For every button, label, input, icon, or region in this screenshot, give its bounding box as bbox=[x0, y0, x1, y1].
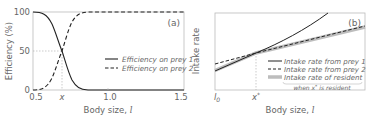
ytick-50: 50 bbox=[19, 46, 30, 56]
xtick-1.5: 1.5 bbox=[174, 92, 188, 102]
panel-a-frame bbox=[33, 12, 184, 90]
legend-prey-1: Efficiency on prey 1 bbox=[122, 55, 193, 64]
panel-b: l0 x* Intake rate Body size, l (b) Intak… bbox=[191, 13, 366, 115]
curve-prey-2 bbox=[33, 12, 184, 90]
panel-a: 100 50 0 0.5 x 1.0 1.5 Efficiency (%) Bo… bbox=[4, 7, 194, 115]
legend-b-note: when x* is resident bbox=[293, 84, 351, 91]
xtick-xstar: x* bbox=[251, 91, 260, 102]
xtick-0.5: 0.5 bbox=[29, 92, 43, 102]
ytick-100: 100 bbox=[14, 7, 30, 17]
legend-b-prey-2: Intake rate from prey 2 bbox=[284, 66, 366, 74]
panel-b-legend: Intake rate from prey 1 Intake rate from… bbox=[268, 58, 366, 91]
xtick-l0: l0 bbox=[214, 92, 220, 103]
curve-prey-1 bbox=[33, 12, 184, 90]
xtick-1.0: 1.0 bbox=[103, 92, 117, 102]
x-axis-label: Body size, l bbox=[84, 105, 133, 115]
x-axis-label-b: Body size, l bbox=[266, 105, 315, 115]
panel-a-legend: Efficiency on prey 1 Efficiency on prey … bbox=[105, 55, 194, 73]
panel-b-label: (b) bbox=[348, 18, 361, 28]
panel-a-label: (a) bbox=[167, 18, 180, 28]
legend-b-resident: Intake rate of resident bbox=[284, 74, 362, 82]
figure: 100 50 0 0.5 x 1.0 1.5 Efficiency (%) Bo… bbox=[0, 0, 369, 120]
legend-prey-2: Efficiency on prey 2 bbox=[122, 64, 194, 73]
xtick-x: x bbox=[58, 92, 65, 102]
y-axis-label-b: Intake rate bbox=[191, 28, 201, 74]
y-axis-label: Efficiency (%) bbox=[4, 22, 14, 80]
legend-b-prey-1: Intake rate from prey 1 bbox=[284, 58, 366, 66]
